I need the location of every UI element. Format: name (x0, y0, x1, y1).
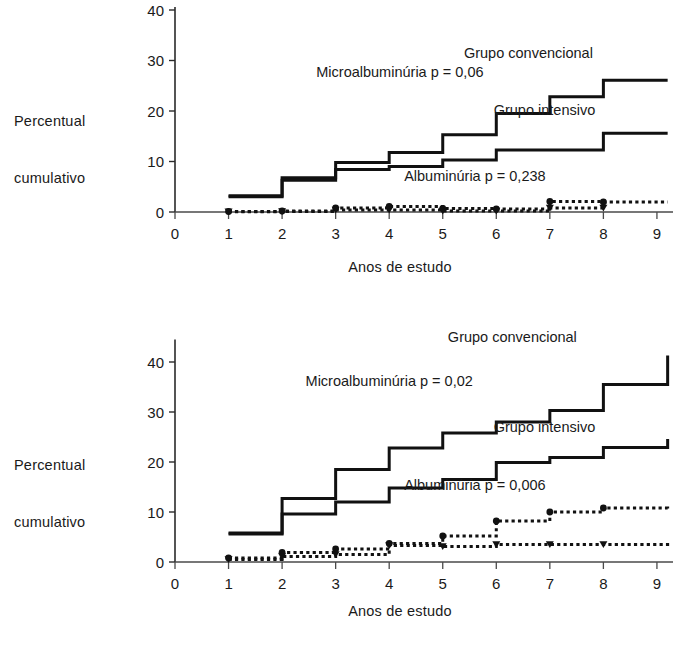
x-tick-label-3: 3 (331, 225, 339, 242)
x-tick-label-5: 5 (439, 575, 447, 592)
chart-svg-bottom: 0102030400123456789Grupo convencionalMic… (0, 300, 687, 648)
y-tick-label-40: 40 (147, 2, 164, 19)
series-marker-top-2-6 (546, 198, 553, 205)
annotation-top-1: Microalbuminúria p = 0,06 (316, 64, 483, 80)
x-tick-label-8: 8 (599, 225, 607, 242)
y-axis-title-bottom-line2: cumulativo (14, 513, 85, 532)
y-axis-title-top-line2: cumulativo (14, 169, 85, 188)
y-axis-title-bottom: Percentual cumulativo (14, 418, 85, 570)
annotation-bottom-3: Albuminúria p = 0,006 (404, 477, 545, 493)
x-axis-title-bottom: Anos de estudo (280, 602, 520, 621)
annotation-top-2: Grupo intensivo (494, 102, 596, 118)
x-tick-label-3: 3 (331, 575, 339, 592)
y-tick-label-40: 40 (147, 354, 164, 371)
annotation-bottom-0: Grupo convencional (448, 329, 577, 345)
x-tick-label-7: 7 (546, 225, 554, 242)
x-tick-label-7: 7 (546, 575, 554, 592)
series-marker-bottom-2-4 (439, 533, 446, 540)
chart-panel-top: Percentual cumulativo 010203040012345678… (0, 0, 687, 300)
x-tick-label-4: 4 (385, 225, 393, 242)
chart-panel-bottom: Percentual cumulativo 010203040012345678… (0, 300, 687, 648)
y-axis-title-top-line1: Percentual (14, 112, 85, 131)
annotation-bottom-2: Grupo intensivo (494, 419, 596, 435)
series-marker-bottom-3-7 (599, 541, 607, 548)
series-marker-top-3-5 (492, 208, 500, 215)
y-tick-label-20: 20 (147, 454, 164, 471)
x-tick-label-9: 9 (653, 575, 661, 592)
x-tick-label-4: 4 (385, 575, 393, 592)
x-tick-label-2: 2 (278, 225, 286, 242)
series-marker-bottom-2-7 (600, 505, 607, 512)
x-tick-label-0: 0 (171, 225, 179, 242)
x-tick-label-1: 1 (224, 575, 232, 592)
series-marker-bottom-2-6 (546, 509, 553, 516)
y-tick-label-30: 30 (147, 404, 164, 421)
x-tick-label-8: 8 (599, 575, 607, 592)
series-marker-bottom-3-2 (332, 551, 340, 558)
x-axis-title-top: Anos de estudo (280, 258, 520, 277)
x-tick-label-9: 9 (653, 225, 661, 242)
x-tick-label-0: 0 (171, 575, 179, 592)
x-tick-label-6: 6 (492, 225, 500, 242)
y-axis-title-bottom-line1: Percentual (14, 456, 85, 475)
series-path-top-1 (229, 133, 668, 197)
x-tick-label-1: 1 (224, 225, 232, 242)
y-tick-label-0: 0 (156, 204, 164, 221)
chart-svg-top: 0102030400123456789Grupo convencionalMic… (0, 0, 687, 300)
y-tick-label-10: 10 (147, 504, 164, 521)
annotation-bottom-1: Microalbuminúria p = 0,02 (306, 373, 473, 389)
series-group-top (225, 80, 668, 215)
series-marker-bottom-3-5 (492, 541, 500, 548)
annotation-top-0: Grupo convencional (464, 45, 593, 61)
annotation-top-3: Albuminúria p = 0,238 (404, 168, 545, 184)
x-tick-label-2: 2 (278, 575, 286, 592)
x-tick-label-5: 5 (439, 225, 447, 242)
y-tick-label-20: 20 (147, 103, 164, 120)
y-tick-label-0: 0 (156, 554, 164, 571)
series-marker-top-2-7 (600, 199, 607, 206)
y-axis-title-top: Percentual cumulativo (14, 74, 85, 226)
y-tick-label-10: 10 (147, 153, 164, 170)
figure-root: Percentual cumulativo 010203040012345678… (0, 0, 687, 648)
x-tick-label-6: 6 (492, 575, 500, 592)
y-tick-label-30: 30 (147, 52, 164, 69)
series-marker-bottom-2-5 (493, 518, 500, 525)
